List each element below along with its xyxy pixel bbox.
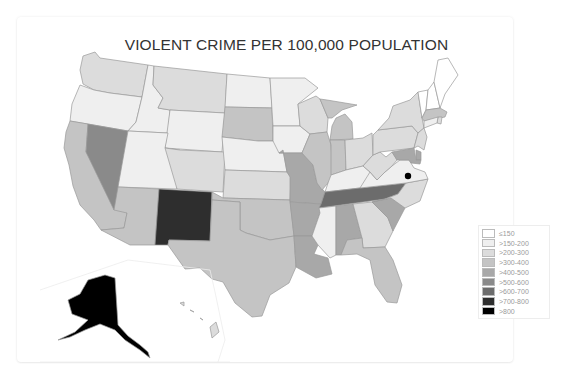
legend-label: >150-200: [499, 240, 529, 247]
state-nm: [155, 189, 212, 245]
legend-swatch: [482, 249, 495, 258]
legend-swatch: [482, 229, 495, 238]
state-hi: [180, 302, 219, 338]
state-sd: [222, 107, 273, 141]
state-in: [330, 140, 346, 175]
state-mt: [153, 66, 227, 113]
legend-item: >800: [482, 307, 515, 316]
legend-label: >600-700: [499, 288, 529, 295]
legend-item: >300-400: [482, 258, 529, 267]
us-choropleth-map: [0, 0, 573, 381]
legend-swatch: [482, 307, 495, 316]
legend-label: >200-300: [499, 249, 529, 256]
legend-item: >500-600: [482, 278, 529, 287]
state-fl: [341, 238, 402, 303]
legend-label: >300-400: [499, 259, 529, 266]
state-wy: [165, 110, 225, 152]
legend-label: >500-600: [499, 279, 529, 286]
legend-swatch: [482, 287, 495, 296]
legend-label: >800: [499, 308, 515, 315]
state-ak: [58, 275, 150, 358]
legend-item: >600-700: [482, 287, 529, 296]
dc-marker: [405, 173, 411, 179]
legend-swatch: [482, 278, 495, 287]
state-ny: [378, 92, 424, 133]
state-nd: [225, 74, 272, 108]
legend-item: ≤150: [482, 229, 515, 238]
legend-swatch: [482, 239, 495, 248]
legend-swatch: [482, 258, 495, 267]
legend-label: >400-500: [499, 269, 529, 276]
legend-swatch: [482, 268, 495, 277]
state-de: [416, 150, 421, 160]
legend-label: ≤150: [499, 230, 515, 237]
legend-swatch: [482, 297, 495, 306]
legend-item: >200-300: [482, 248, 529, 257]
legend-item: >700-800: [482, 297, 529, 306]
legend-item: >150-200: [482, 239, 529, 248]
legend-item: >400-500: [482, 268, 529, 277]
legend-label: >700-800: [499, 298, 529, 305]
legend: ≤150>150-200>200-300>300-400>400-500>500…: [478, 225, 550, 319]
state-ks: [223, 170, 291, 200]
